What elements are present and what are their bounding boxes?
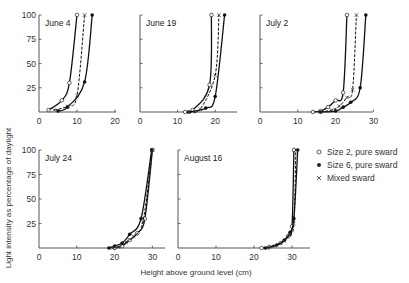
panel-title: June 19 bbox=[146, 18, 177, 28]
x-tick-label: 0 bbox=[37, 252, 42, 262]
open-circle-icon bbox=[317, 150, 321, 154]
filled-circle-marker bbox=[204, 106, 208, 110]
x-tick-label: 30 bbox=[148, 252, 158, 262]
y-tick-label: 50 bbox=[27, 59, 37, 69]
open-circle-marker bbox=[60, 99, 64, 103]
legend-item-size2: Size 2, pure sward bbox=[317, 147, 398, 157]
y-tick-label: 75 bbox=[27, 34, 37, 44]
legend-label: Size 6, pure sward bbox=[327, 160, 398, 170]
open-circle-marker bbox=[183, 110, 187, 114]
filled-circle-marker bbox=[349, 101, 353, 105]
x-tick-label: 10 bbox=[211, 252, 221, 262]
x-tick-label: 20 bbox=[110, 116, 120, 126]
legend-item-size6: Size 6, pure sward bbox=[317, 160, 398, 170]
open-circle-marker bbox=[47, 108, 51, 112]
y-axis-title: Light intensity as percentage of dayligh… bbox=[4, 127, 13, 268]
open-circle-marker bbox=[345, 13, 349, 17]
filled-circle-marker bbox=[107, 246, 111, 250]
y-tick-label: 25 bbox=[27, 219, 37, 229]
filled-circle-marker bbox=[83, 80, 87, 84]
x-tick-label: 10 bbox=[173, 116, 183, 126]
panel-july-24: 2550751000102030July 24 bbox=[22, 145, 165, 262]
y-tick-label: 75 bbox=[27, 170, 37, 180]
open-circle-marker bbox=[311, 110, 315, 114]
series-line bbox=[185, 15, 211, 113]
y-tick-label: 100 bbox=[22, 145, 36, 155]
filled-circle-marker bbox=[296, 148, 300, 152]
x-tick-label: 0 bbox=[37, 116, 42, 126]
x-tick-label: 0 bbox=[258, 116, 263, 126]
series-line bbox=[54, 15, 84, 110]
y-tick-label: 50 bbox=[27, 194, 37, 204]
panel-june-19: 01020June 19 bbox=[138, 13, 237, 126]
filled-circle-icon bbox=[317, 163, 321, 167]
x-tick-label: 20 bbox=[249, 252, 259, 262]
light-intensity-chart: 25507510001020June 401020June 190102030J… bbox=[0, 0, 409, 283]
series-line bbox=[189, 15, 225, 112]
open-circle-marker bbox=[75, 13, 79, 17]
filled-circle-marker bbox=[364, 13, 368, 17]
panel-july-2: 0102030July 2 bbox=[258, 13, 379, 126]
series-line bbox=[49, 15, 78, 110]
open-circle-marker bbox=[210, 13, 214, 17]
y-tick-label: 100 bbox=[22, 10, 36, 20]
series-line bbox=[313, 15, 347, 112]
panel-june-4: 25507510001020June 4 bbox=[22, 10, 120, 126]
filled-circle-marker bbox=[223, 13, 227, 17]
panel-title: August 16 bbox=[184, 153, 223, 163]
open-circle-marker bbox=[326, 105, 330, 109]
panel-august-16: 0102030August 16 bbox=[176, 148, 310, 262]
filled-circle-marker bbox=[213, 95, 217, 99]
panel-title: July 24 bbox=[45, 153, 72, 163]
filled-circle-marker bbox=[358, 86, 362, 90]
open-circle-marker bbox=[341, 91, 345, 95]
open-circle-marker bbox=[68, 81, 72, 85]
legend-item-mixed: Mixed sward bbox=[317, 173, 375, 183]
x-tick-label: 20 bbox=[210, 116, 220, 126]
legend-label: Mixed sward bbox=[327, 173, 375, 183]
open-circle-marker bbox=[208, 83, 212, 87]
filled-circle-marker bbox=[90, 13, 94, 17]
series-line bbox=[320, 15, 356, 112]
x-tick-label: 10 bbox=[293, 116, 303, 126]
x-tick-label: 30 bbox=[287, 252, 297, 262]
panel-title: July 2 bbox=[266, 18, 288, 28]
legend-label: Size 2, pure sward bbox=[327, 147, 398, 157]
open-circle-marker bbox=[260, 246, 264, 250]
filled-circle-marker bbox=[334, 109, 338, 113]
cross-marker bbox=[338, 104, 342, 108]
filled-circle-marker bbox=[264, 246, 268, 250]
legend: Size 2, pure sward Size 6, pure sward Mi… bbox=[317, 147, 398, 183]
x-tick-label: 20 bbox=[331, 116, 341, 126]
open-circle-marker bbox=[334, 99, 338, 103]
panel-title: June 4 bbox=[45, 18, 71, 28]
filled-circle-marker bbox=[128, 232, 132, 236]
filled-circle-marker bbox=[150, 148, 154, 152]
x-tick-label: 0 bbox=[138, 116, 143, 126]
y-tick-label: 25 bbox=[27, 83, 37, 93]
x-tick-label: 20 bbox=[110, 252, 120, 262]
series-line bbox=[320, 15, 365, 112]
x-axis-title: Height above ground level (cm) bbox=[140, 268, 252, 277]
series-line bbox=[113, 150, 153, 248]
x-tick-label: 10 bbox=[72, 116, 82, 126]
x-tick-label: 10 bbox=[72, 252, 82, 262]
open-circle-marker bbox=[292, 148, 296, 152]
x-tick-label: 30 bbox=[369, 116, 379, 126]
chart-panels: 25507510001020June 401020June 190102030J… bbox=[22, 10, 379, 262]
x-tick-label: 0 bbox=[176, 252, 181, 262]
cross-icon bbox=[317, 176, 321, 180]
filled-circle-marker bbox=[341, 105, 345, 109]
